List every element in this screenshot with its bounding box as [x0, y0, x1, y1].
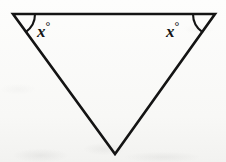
- right-angle-arc: [193, 14, 202, 32]
- left-angle-arc: [26, 14, 35, 32]
- right-angle-label: x°: [166, 20, 179, 40]
- left-angle-label: x°: [37, 20, 50, 40]
- triangle-figure-svg: [0, 0, 226, 162]
- left-angle-degree-icon: °: [46, 19, 51, 33]
- figure-canvas: x° x°: [0, 0, 226, 162]
- right-angle-variable: x: [166, 22, 175, 41]
- left-angle-variable: x: [37, 22, 46, 41]
- right-angle-degree-icon: °: [175, 19, 180, 33]
